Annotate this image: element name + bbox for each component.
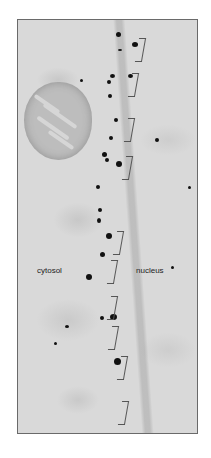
nucleus-label: nucleus — [136, 266, 164, 275]
cytosol-label: cytosol — [37, 266, 62, 275]
mitochondrion — [24, 82, 92, 160]
micrograph-frame: cytosol nucleus — [17, 19, 198, 434]
